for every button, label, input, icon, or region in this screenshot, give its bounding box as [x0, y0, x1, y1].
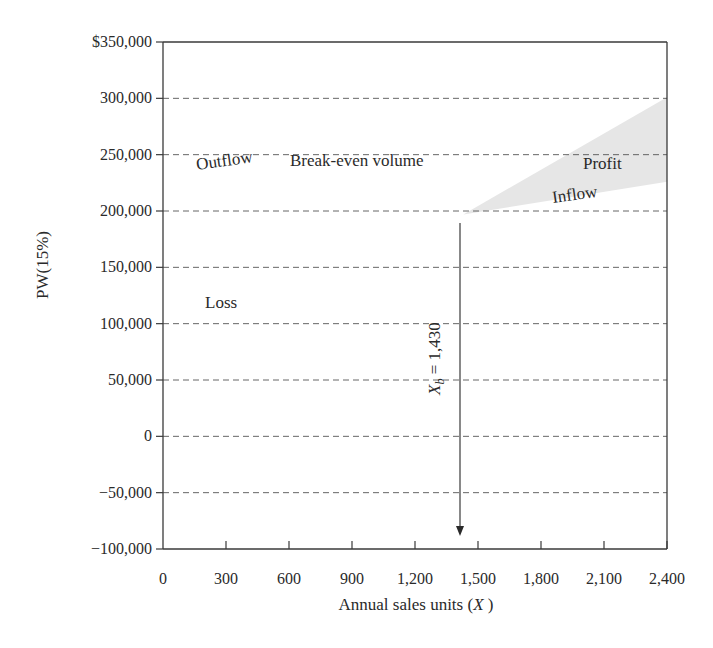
arrow-head-icon [456, 526, 464, 536]
y-tick-label: −100,000 [91, 540, 152, 557]
y-tick-label: 150,000 [100, 258, 152, 275]
x-tick-label: 0 [159, 570, 167, 587]
x-tick-label: 2,100 [586, 570, 622, 587]
x-tick-label: 600 [277, 570, 301, 587]
x-axis-title: Annual sales units (X ) [339, 595, 494, 614]
annotation-break-even-volume: Break-even volume [290, 151, 424, 170]
y-axis-title: PW(15%) [33, 231, 52, 299]
x-tick-label: 1,200 [397, 570, 433, 587]
break-even-value-label: Xb = 1,430 [425, 322, 447, 396]
x-tick-label: 900 [340, 570, 364, 587]
y-tick-label: $350,000 [92, 33, 152, 50]
x-axis-ticks: 03006009001,2001,5001,8002,1002,400 [159, 541, 685, 587]
y-tick-label: 300,000 [100, 89, 152, 106]
x-tick-label: 1,500 [460, 570, 496, 587]
y-tick-label: 250,000 [100, 146, 152, 163]
y-tick-label: 0 [144, 427, 152, 444]
breakeven-chart: $350,000300,000250,000200,000150,000100,… [0, 0, 713, 648]
x-tick-label: 2,400 [649, 570, 685, 587]
annotation-loss: Loss [205, 293, 237, 312]
annotation-profit: Profit [583, 154, 622, 173]
annotation-outflow: Outflow [195, 147, 254, 174]
plot-frame [163, 42, 667, 549]
y-axis-ticks: $350,000300,000250,000200,000150,000100,… [91, 33, 163, 557]
x-tick-label: 1,800 [523, 570, 559, 587]
y-tick-label: 200,000 [100, 202, 152, 219]
y-tick-label: 50,000 [108, 371, 152, 388]
y-tick-label: 100,000 [100, 315, 152, 332]
y-tick-label: −50,000 [99, 484, 152, 501]
break-even-arrow [456, 223, 464, 536]
x-tick-label: 300 [214, 570, 238, 587]
